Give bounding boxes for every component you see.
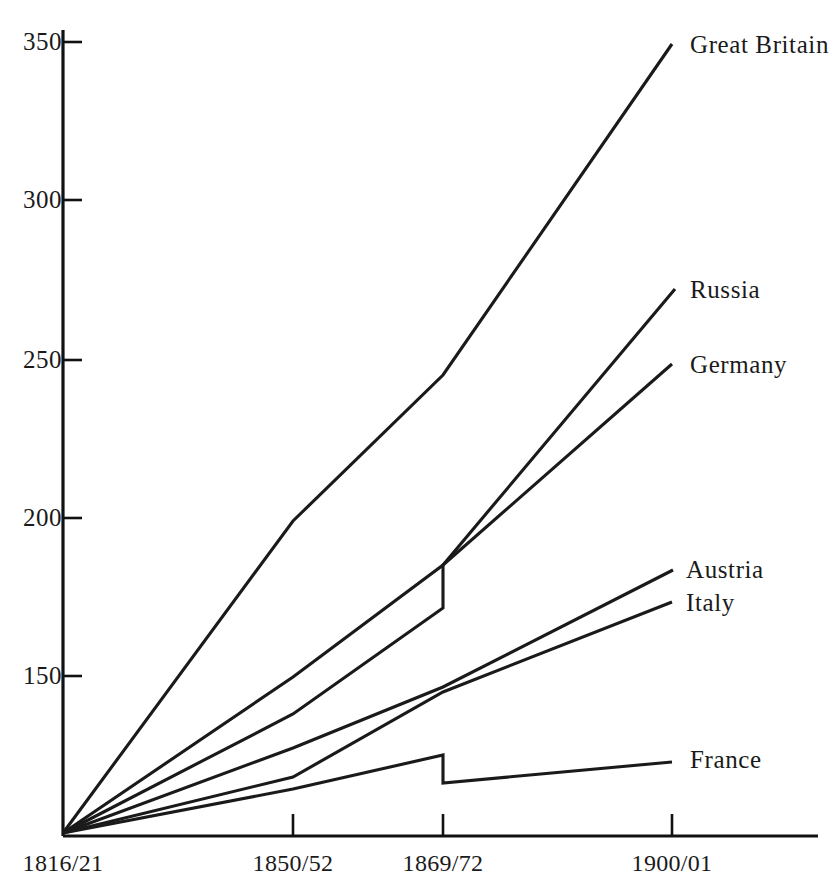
y-tick-label-150: 150 — [0, 662, 62, 690]
series-label-great-britain: Great Britain — [690, 31, 829, 59]
y-tick-label-350: 350 — [0, 28, 62, 56]
series-line-germany — [63, 364, 672, 833]
series-label-russia: Russia — [690, 276, 760, 304]
line-chart: 350 300 250 200 150 1816/21 1850/52 1869… — [0, 0, 835, 887]
y-tick-label-300: 300 — [0, 186, 62, 214]
series-lines — [63, 44, 675, 833]
series-label-italy: Italy — [686, 589, 735, 617]
series-line-great-britain — [63, 44, 672, 833]
x-tick-label-1869: 1869/72 — [403, 850, 484, 877]
x-tick-label-1816: 1816/21 — [23, 850, 104, 877]
series-line-austria — [63, 570, 673, 833]
series-line-russia — [63, 289, 675, 833]
y-tick-label-200: 200 — [0, 504, 62, 532]
axis-lines — [63, 30, 818, 836]
x-tick-label-1900: 1900/01 — [632, 850, 713, 877]
y-tick-label-250: 250 — [0, 346, 62, 374]
x-axis-ticks — [293, 814, 672, 836]
series-line-france — [63, 755, 672, 833]
series-label-france: France — [690, 746, 762, 774]
series-label-germany: Germany — [690, 351, 787, 379]
series-label-austria: Austria — [686, 556, 764, 584]
x-tick-label-1850: 1850/52 — [253, 850, 334, 877]
y-axis-ticks — [63, 42, 82, 676]
